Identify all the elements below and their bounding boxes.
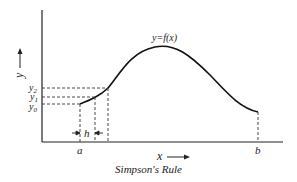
- simpsons-rule-diagram: h y2 y1 y0 a b y=f(x) x y Simpson's Rule: [0, 0, 297, 182]
- x-axis-arrow-icon: [167, 155, 190, 160]
- figure-caption: Simpson's Rule: [0, 163, 297, 175]
- x-tick-a: a: [77, 144, 83, 156]
- interval-label: h: [84, 127, 90, 139]
- curve-fx: [80, 46, 258, 112]
- x-tick-b: b: [255, 144, 261, 156]
- curve-label: y=f(x): [151, 32, 178, 44]
- diagram-canvas: h y2 y1 y0 a b y=f(x) x y: [0, 0, 297, 182]
- dashed-guides: [42, 88, 258, 142]
- y-axis-arrow-icon: [18, 48, 23, 68]
- y-axis-label: y: [12, 72, 26, 79]
- x-axis-label: x: [156, 149, 163, 163]
